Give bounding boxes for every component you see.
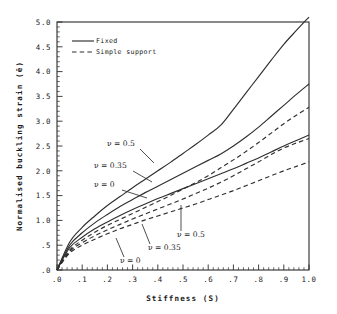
buckling-strain-chart: .0.51.01.52.02.53.03.54.04.55.0 .0.1.2.3… bbox=[0, 0, 337, 314]
y-tick-label: 1.5 bbox=[36, 191, 51, 200]
x-axis-title: Stiffness (S) bbox=[146, 294, 220, 303]
annotation-simple-nu-0: ν = 0 bbox=[120, 256, 141, 265]
annotation-simple-nu-0.35: ν = 0.35 bbox=[148, 243, 181, 252]
y-tick-label: 4.0 bbox=[36, 67, 51, 76]
leader-simple-nu-0 bbox=[116, 238, 124, 257]
x-tick-label: .8 bbox=[254, 275, 264, 284]
x-axis-tick-labels: .0.1.2.3.4.5.6.7.8.91.0 bbox=[52, 275, 317, 284]
x-tick-label: .2 bbox=[102, 275, 112, 284]
curve-series-1 bbox=[57, 84, 309, 270]
chart-figure: .0.51.01.52.02.53.03.54.04.55.0 .0.1.2.3… bbox=[0, 0, 337, 314]
y-tick-label: 3.0 bbox=[36, 117, 51, 126]
curve-series-4 bbox=[57, 139, 309, 270]
y-tick-label: 5.0 bbox=[36, 18, 51, 27]
x-tick-label: .4 bbox=[153, 275, 163, 284]
x-tick-label: .9 bbox=[279, 275, 289, 284]
x-tick-label: .5 bbox=[178, 275, 188, 284]
y-tick-label: 3.5 bbox=[36, 92, 51, 101]
annotation-fixed-nu-0.5: ν = 0.5 bbox=[107, 139, 135, 148]
y-tick-label: .5 bbox=[41, 241, 51, 250]
leader-simple-nu-0.35 bbox=[142, 224, 150, 244]
x-tick-label: .1 bbox=[77, 275, 87, 284]
y-tick-label: 1.0 bbox=[36, 216, 51, 225]
x-tick-label: .6 bbox=[203, 275, 213, 284]
y-tick-label: 2.0 bbox=[36, 167, 51, 176]
y-tick-label: 4.5 bbox=[36, 43, 51, 52]
x-tick-label: .3 bbox=[128, 275, 138, 284]
annotation-simple-nu-0.5: ν = 0.5 bbox=[177, 230, 205, 239]
x-tick-label: 1.0 bbox=[301, 275, 316, 284]
curve-series-2 bbox=[57, 135, 309, 270]
y-axis-tick-labels: .0.51.01.52.02.53.03.54.04.55.0 bbox=[36, 18, 51, 275]
y-tick-label: 2.5 bbox=[36, 142, 51, 151]
annotation-fixed-nu-0.35: ν = 0.35 bbox=[94, 161, 127, 170]
y-tick-label: .0 bbox=[41, 266, 51, 275]
y-axis-title: Normalised buckling strain (ē) bbox=[15, 61, 24, 231]
chart-legend: Fixed Simple support bbox=[72, 37, 156, 56]
legend-label-fixed: Fixed bbox=[96, 37, 118, 45]
annotation-fixed-nu-0: ν = 0 bbox=[94, 180, 115, 189]
x-tick-label: .7 bbox=[228, 275, 238, 284]
legend-label-simple-support: Simple support bbox=[96, 48, 156, 56]
x-tick-label: .0 bbox=[52, 275, 62, 284]
leader-fixed-nu-0.5 bbox=[140, 149, 154, 163]
